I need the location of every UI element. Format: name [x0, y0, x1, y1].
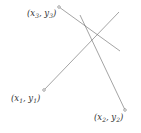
- segment-1: [44, 12, 119, 90]
- point-marker-p2: [124, 109, 127, 112]
- point-label-p2: (x2, y2): [94, 112, 123, 123]
- point-marker-p3: [58, 6, 61, 9]
- point-label-p1: (x1, y1): [11, 93, 40, 104]
- diagram-canvas: (x3, y3) (x1, y1) (x2, y2): [0, 0, 141, 133]
- segment-3: [59, 7, 120, 51]
- diagram-svg: (x3, y3) (x1, y1) (x2, y2): [0, 0, 141, 133]
- point-label-p3: (x3, y3): [27, 8, 56, 19]
- point-marker-p1: [43, 89, 46, 92]
